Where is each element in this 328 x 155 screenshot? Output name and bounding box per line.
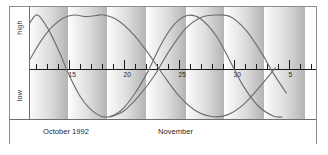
month-strip: October 1992 November <box>10 119 316 144</box>
y-axis-label-high: high <box>15 5 24 51</box>
tide-curves-group <box>30 7 316 119</box>
tide-curve <box>30 15 275 117</box>
tide-curve <box>110 15 286 117</box>
y-axis-label-low: low <box>15 73 24 119</box>
tide-curve <box>30 15 282 117</box>
month-label-october: October 1992 <box>43 127 89 136</box>
tide-chart-figure: high low 152025305 October 1992 November <box>0 0 328 155</box>
month-label-november: November <box>158 127 193 136</box>
y-axis-label-gutter: high low <box>10 7 29 119</box>
plot-area: 152025305 <box>30 7 316 119</box>
